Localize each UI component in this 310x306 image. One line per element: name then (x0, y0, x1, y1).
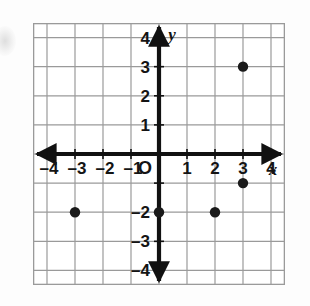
data-point (238, 61, 248, 71)
y-tick-label: 1 (141, 116, 150, 135)
y-tick-label: 3 (141, 58, 150, 77)
coordinate-graph: –4–3–2–112344321–2–3–4Oxy (33, 23, 285, 285)
y-tick-label: 4 (141, 29, 151, 48)
x-tick-label: 2 (210, 159, 219, 178)
y-tick-label: –2 (131, 203, 150, 222)
x-tick-label: –2 (96, 159, 115, 178)
x-axis-label: x (268, 160, 278, 179)
y-axis-label: y (166, 25, 176, 44)
plot-area: –4–3–2–112344321–2–3–4Oxy (33, 23, 285, 285)
origin-label: O (138, 158, 152, 178)
data-point (154, 207, 164, 217)
data-point (210, 207, 220, 217)
x-tick-label: –3 (68, 159, 87, 178)
x-tick-label: –4 (40, 159, 59, 178)
data-point (70, 207, 80, 217)
x-tick-label: 1 (182, 159, 191, 178)
y-tick-label: 2 (141, 87, 150, 106)
x-tick-label: 3 (238, 159, 247, 178)
data-point (238, 178, 248, 188)
coordinate-plane-figure: –4–3–2–112344321–2–3–4Oxy (0, 0, 310, 306)
y-tick-label: –4 (131, 261, 150, 280)
scan-artifact (0, 26, 16, 56)
y-tick-label: –3 (131, 232, 150, 251)
